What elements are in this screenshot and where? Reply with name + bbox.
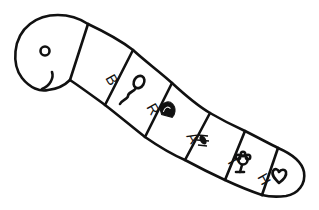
heart-icon: [272, 169, 286, 183]
worm-illustration: B R A T H: [0, 0, 319, 210]
smile-icon: [42, 72, 53, 89]
tadpole-icon: [120, 74, 147, 104]
flower-icon: [236, 152, 250, 172]
letter-b: B: [102, 71, 122, 88]
body-upper-edge: [88, 24, 278, 148]
neck-line: [70, 24, 88, 80]
eye-icon: [41, 47, 50, 56]
